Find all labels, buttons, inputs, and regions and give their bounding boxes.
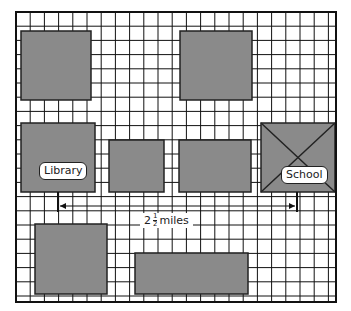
school-label: School: [281, 166, 328, 184]
block-mid-2: [179, 140, 251, 192]
block-library: [21, 123, 95, 192]
distance-fraction: 12: [153, 213, 157, 228]
distance-label: 212miles: [140, 213, 193, 228]
distance-unit: miles: [159, 214, 188, 227]
block-top-left: [21, 31, 91, 100]
block-mid-1: [109, 140, 164, 192]
block-bottom-left: [35, 224, 107, 294]
block-bottom-wide: [135, 253, 248, 294]
street-map: [0, 0, 351, 311]
distance-whole: 2: [144, 214, 151, 227]
block-top-right: [180, 31, 252, 100]
library-label: Library: [39, 162, 87, 180]
